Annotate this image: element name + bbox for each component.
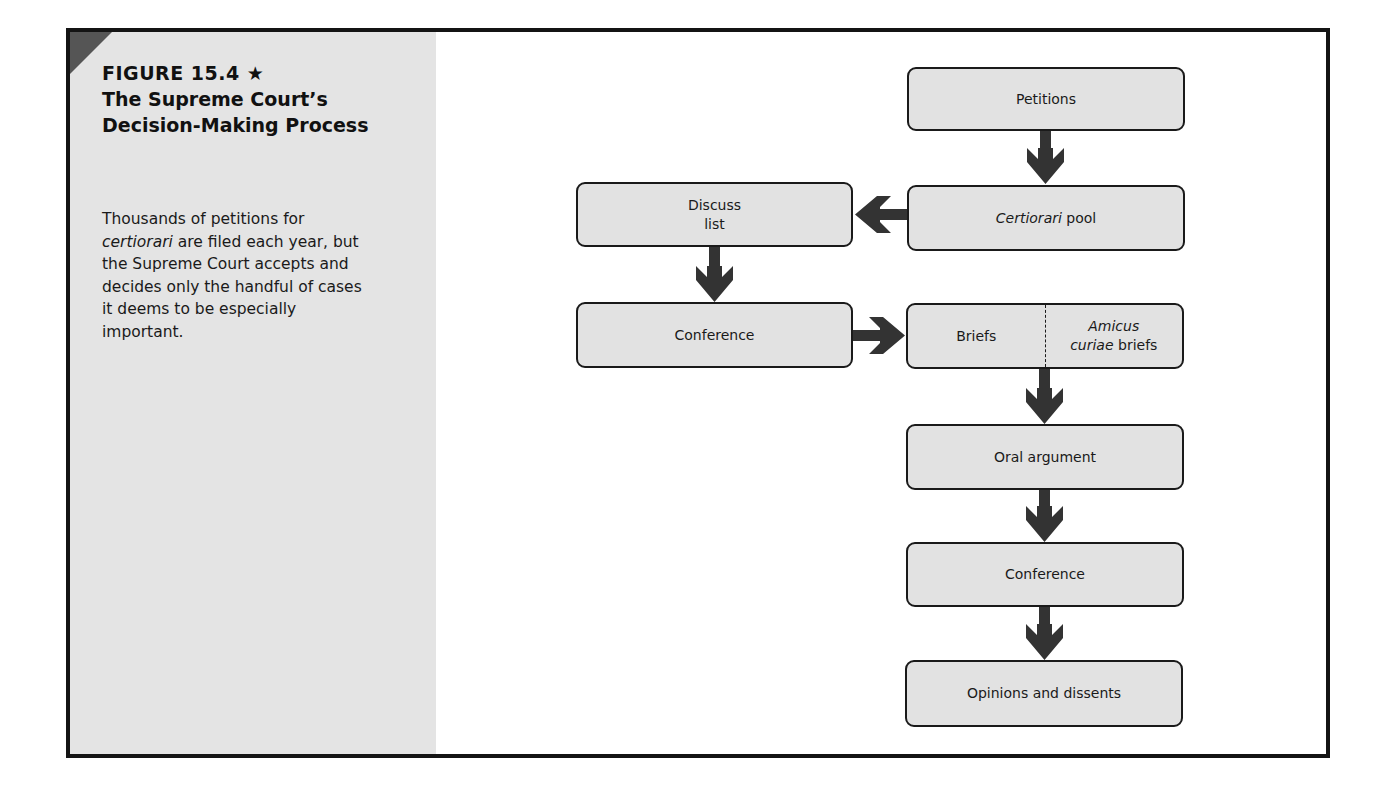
- node-conference-2: Conference: [906, 542, 1184, 607]
- node-discuss-list-line2: list: [704, 215, 725, 234]
- figure-number: FIGURE 15.4 ★: [102, 60, 422, 86]
- curiae-briefs-label: curiae briefs: [1070, 336, 1157, 355]
- node-conference-1-label: Conference: [674, 326, 754, 345]
- node-briefs: Briefs Amicus curiae briefs: [906, 303, 1184, 369]
- figure-caption: Thousands of petitions for certiorari ar…: [102, 208, 362, 343]
- node-discuss-list-line1: Discuss: [688, 196, 741, 215]
- node-certiorari-pool: Certiorari pool: [907, 185, 1185, 251]
- certiorari-italic: Certiorari: [996, 210, 1062, 226]
- briefs-label: Briefs: [956, 327, 996, 346]
- briefs-suffix: briefs: [1114, 337, 1158, 353]
- figure-sidebar: FIGURE 15.4 ★ The Supreme Court’s Decisi…: [70, 32, 436, 754]
- amicus-briefs-section: Amicus curiae briefs: [1046, 305, 1183, 367]
- node-discuss-list: Discuss list: [576, 182, 853, 247]
- curiae-italic: curiae: [1070, 337, 1113, 353]
- node-petitions: Petitions: [907, 67, 1185, 131]
- caption-text-part1: Thousands of petitions for: [102, 210, 304, 228]
- node-petitions-label: Petitions: [1016, 90, 1076, 109]
- node-certiorari-pool-label: Certiorari pool: [996, 209, 1096, 228]
- briefs-section: Briefs: [908, 305, 1045, 367]
- node-oral-argument: Oral argument: [906, 424, 1184, 490]
- figure-title: The Supreme Court’s Decision-Making Proc…: [102, 86, 422, 138]
- pool-text: pool: [1062, 210, 1096, 226]
- node-opinions-label: Opinions and dissents: [967, 684, 1121, 703]
- figure-heading: FIGURE 15.4 ★ The Supreme Court’s Decisi…: [102, 60, 422, 138]
- figure-frame: FIGURE 15.4 ★ The Supreme Court’s Decisi…: [66, 28, 1330, 758]
- node-conference-1: Conference: [576, 302, 853, 368]
- node-opinions-and-dissents: Opinions and dissents: [905, 660, 1183, 727]
- caption-text-italic: certiorari: [102, 233, 173, 251]
- node-conference-2-label: Conference: [1005, 565, 1085, 584]
- node-oral-argument-label: Oral argument: [994, 448, 1096, 467]
- amicus-label: Amicus: [1088, 317, 1139, 336]
